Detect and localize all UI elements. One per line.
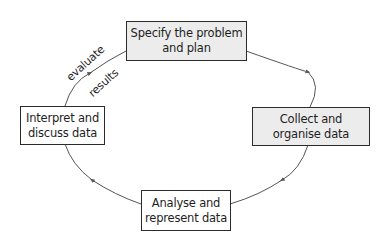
stage-text-line: represent data [145,211,227,226]
arrow-analyse-to-interpret [92,180,141,204]
arrow-specify-to-collect [246,51,308,72]
stage-collect-data: Collect and organise data [252,107,370,146]
stage-analyse-data: Analyse and represent data [141,190,231,231]
stage-text-line: Analyse and [152,196,220,211]
stage-text-line: Interpret and [26,111,99,126]
stage-text-line: organise data [273,127,349,142]
stage-text-line: Specify the problem [131,26,243,41]
stage-text-line: and plan [162,41,211,56]
stage-text-line: Collect and [280,112,342,127]
stage-specify-problem: Specify the problem and plan [126,21,247,61]
arrow-collect-to-analyse [282,145,308,180]
stage-text-line: discuss data [28,126,97,141]
stage-interpret-data: Interpret and discuss data [20,106,105,145]
